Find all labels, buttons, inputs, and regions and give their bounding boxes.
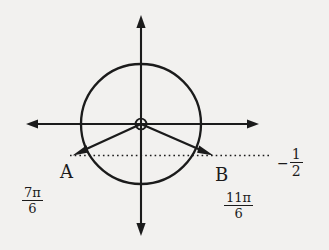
ray-to-b-line [141,124,203,151]
ray-to-b [141,124,214,156]
figure-canvas [0,0,329,250]
angle-b-label: 11π 6 [224,191,253,220]
value-label-neg-one-half: − 1 2 [277,147,303,178]
angle-b-numerator: 11π [224,191,253,206]
angle-a-numerator: 7π [22,186,43,201]
unit-circle-figure: A B 7π 6 11π 6 − 1 2 [0,0,329,250]
angle-a-fraction: 7π 6 [22,186,43,215]
value-numerator: 1 [290,147,303,163]
angle-b-fraction: 11π 6 [224,191,253,220]
point-b-label: B [215,166,228,184]
point-a-label: A [60,163,73,181]
y-axis-bottom-arrowhead [136,223,145,236]
ray-to-b-arrowhead [197,146,213,156]
x-axis-right-arrowhead [247,119,259,128]
x-axis-left-arrowhead [26,119,38,128]
y-axis-top-arrowhead [136,15,145,28]
angle-a-denominator: 6 [22,201,43,215]
ray-to-a-arrowhead [73,145,89,155]
value-minus-sign: − [277,156,290,170]
value-fraction: 1 2 [290,147,303,178]
value-denominator: 2 [290,163,303,178]
ray-to-a-line [82,124,141,151]
angle-a-label: 7π 6 [22,186,43,215]
angle-b-denominator: 6 [224,206,253,220]
